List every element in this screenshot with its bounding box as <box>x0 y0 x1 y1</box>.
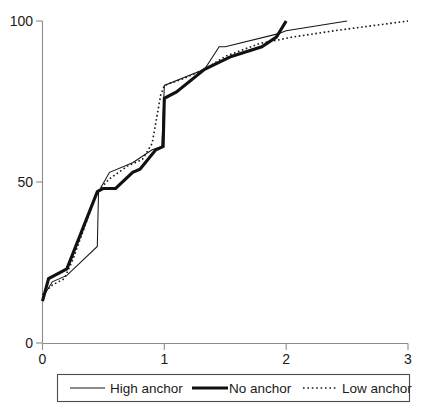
y-tick-label-0: 0 <box>25 335 33 351</box>
y-tick-label-100: 100 <box>10 13 34 29</box>
x-tick-label-3: 3 <box>404 351 412 367</box>
x-tick-label-1: 1 <box>160 351 168 367</box>
legend-label-no-anchor: No anchor <box>229 381 292 396</box>
y-tick-label-50: 50 <box>17 174 33 190</box>
chart-figure: 100 50 0 0 1 2 3 High anchor No anchor <box>0 0 424 408</box>
legend-label-high-anchor: High anchor <box>110 381 183 396</box>
chart-legend: High anchor No anchor Low anchor <box>58 375 413 402</box>
chart-background <box>0 0 424 408</box>
x-tick-label-0: 0 <box>39 351 47 367</box>
x-tick-label-2: 2 <box>282 351 290 367</box>
legend-label-low-anchor: Low anchor <box>342 381 412 396</box>
